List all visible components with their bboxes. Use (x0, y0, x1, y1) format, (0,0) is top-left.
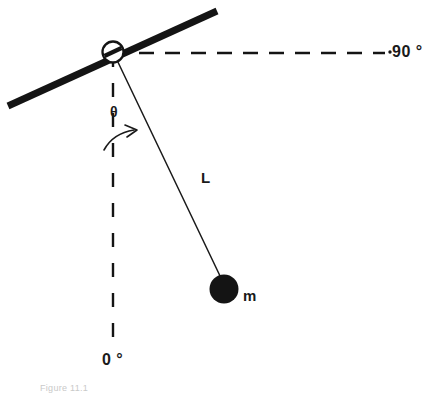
label-mass-m: m (243, 288, 256, 303)
pendulum-rod (116, 58, 221, 278)
figure-caption: Figure 11.1 (40, 383, 88, 393)
angle-sweep-arrow (104, 130, 134, 150)
pendulum-diagram: 90 ° 0 ° θ L m Figure 11.1 (0, 0, 434, 393)
pendulum-bob (210, 275, 239, 304)
label-angle-90: 90 ° (392, 44, 423, 60)
label-angle-0: 0 ° (102, 352, 123, 368)
pendulum-schematic-svg (0, 0, 434, 393)
label-length-L: L (201, 170, 210, 185)
label-angle-theta: θ (110, 105, 118, 119)
